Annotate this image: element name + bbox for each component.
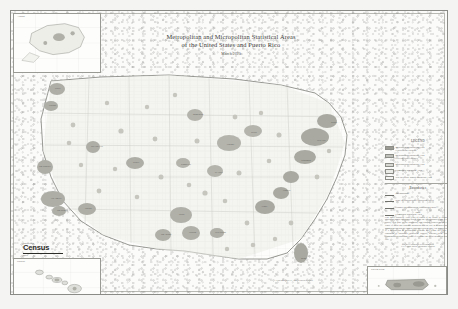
legend-item-sublabel: Outlying county/counties (396, 157, 448, 160)
logo-sub-text: Bureau (23, 254, 65, 256)
legend-swatch (385, 176, 394, 180)
puerto-rico-outline-svg (368, 267, 446, 295)
legend-item: Micropolitan Statistical Area (385, 163, 448, 167)
legend-item-label: Not in a Core Based Statistical Area (396, 176, 448, 179)
legend-boundary-item: State or Statistically Equivalent Entity (385, 199, 448, 203)
inset-label-hawaii: Hawaii (17, 260, 25, 263)
inset-label-puerto-rico: Puerto Rico (371, 268, 384, 271)
legend-item: Not in a Core Based Statistical Area (385, 176, 448, 180)
notes-body: Core Based Statistical Areas (CBSAs) con… (385, 216, 448, 241)
conus-map: SeattlePortlandSan FranciscoLos AngelesS… (29, 73, 369, 269)
logo-wordmark: Census (23, 244, 65, 252)
inset-puerto-rico: Puerto Rico (367, 266, 447, 295)
scale-bar (266, 294, 322, 295)
hawaii-outline-svg (14, 259, 100, 295)
inset-hawaii: Hawaii (13, 258, 101, 295)
legend-boundary-label: State or Statistically Equivalent Entity (396, 199, 448, 202)
census-map-poster: Metropolitan and Micropolitan Statistica… (0, 0, 458, 309)
title-block: Metropolitan and Micropolitan Statistica… (131, 33, 331, 56)
legend-swatch (385, 163, 394, 167)
legend-item-label: Metropolitan Statistical AreaCentral cou… (396, 146, 448, 152)
legend-item-sublabel: Central county/counties (396, 149, 448, 152)
legend-item: Metropolitan Statistical AreaCentral cou… (385, 146, 448, 152)
legend-swatch (385, 154, 394, 158)
alaska-outline-svg (14, 14, 100, 72)
legend-boundary-label: International (396, 192, 448, 195)
conus-outline-svg (29, 73, 369, 269)
legend-swatch (385, 146, 394, 150)
legend-heading: LEGEND (385, 139, 448, 143)
legend-swatch (385, 169, 394, 173)
legend-item: Metropolitan Statistical AreaOutlying co… (385, 154, 448, 160)
page-title-line-2: of the United States and Puerto Rico (131, 41, 331, 49)
legend-boundary-label: County or Statistically Equivalent Entit… (396, 206, 448, 209)
legend-boundary-item: International (385, 192, 448, 196)
legend-item-label: Metropolitan Statistical AreaOutlying co… (396, 154, 448, 160)
legend-boundary-line (385, 206, 394, 210)
legend-boundary-line (385, 199, 394, 203)
census-bureau-logo: United States Census Bureau (23, 242, 65, 256)
legend-items: Metropolitan Statistical AreaCentral cou… (385, 146, 448, 181)
notes-block: Note Core Based Statistical Areas (CBSAs… (385, 211, 448, 248)
inset-label-alaska: Alaska (17, 15, 25, 18)
legend-item-label: Micropolitan Statistical Area (396, 163, 448, 166)
map-frame: Metropolitan and Micropolitan Statistica… (10, 10, 448, 295)
notes-heading: Note (385, 211, 448, 214)
page-title-line-1: Metropolitan and Micropolitan Statistica… (131, 33, 331, 41)
title-date: March 2020 (131, 52, 331, 56)
projection-label: ALBERS EQUAL AREA PROJECTION (241, 279, 347, 281)
legend: LEGEND Metropolitan Statistical AreaCent… (385, 139, 448, 220)
notes-footer-line-2: U.S. Census Bureau, Geography Division (385, 245, 448, 248)
legend-boundary-item: County or Statistically Equivalent Entit… (385, 206, 448, 210)
legend-item: Combined Statistical Area (385, 169, 448, 173)
scale-block: ALBERS EQUAL AREA PROJECTION 0 100 200 3… (241, 279, 347, 295)
inset-alaska: Alaska (13, 13, 101, 73)
legend-boundaries-heading: Boundaries (385, 186, 448, 190)
legend-boundary-line (385, 192, 394, 196)
legend-item-label: Combined Statistical Area (396, 169, 448, 172)
